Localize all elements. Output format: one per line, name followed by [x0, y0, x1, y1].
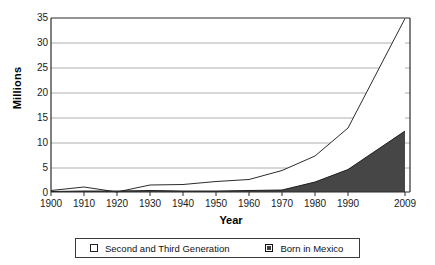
filled-square-icon [265, 244, 273, 252]
x-axis-title: Year [50, 214, 412, 226]
x-axis-ticks [51, 192, 405, 196]
legend-label-born-in-mexico: Born in Mexico [280, 243, 343, 254]
open-square-icon [90, 244, 98, 252]
legend-label-second-and-third-generation: Second and Third Generation [105, 243, 229, 254]
chart-legend: Second and Third Generation Born in Mexi… [75, 238, 360, 258]
x-tick-label-2009: 2009 [385, 199, 425, 209]
legend-item-born-in-mexico[interactable]: Born in Mexico [265, 243, 343, 254]
chart-container: Millions 35 30 25 20 15 10 5 0 [0, 0, 435, 265]
legend-item-second-and-third-generation[interactable]: Second and Third Generation [90, 243, 229, 254]
area-second-third-generation [51, 19, 405, 193]
x-tick-label-1990: 1990 [328, 199, 368, 209]
